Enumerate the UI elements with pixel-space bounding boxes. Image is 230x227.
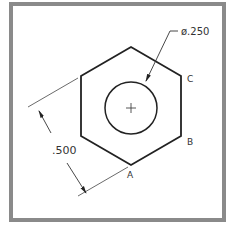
diameter-label: ø.250 — [181, 26, 209, 37]
extension-lines — [28, 78, 128, 196]
technical-drawing: ø.250 .500 C B A — [0, 0, 230, 227]
across-flats-label: .500 — [52, 144, 77, 157]
center-mark-icon — [126, 103, 136, 113]
vertex-label-b: B — [187, 137, 193, 147]
vertex-label-c: C — [187, 74, 193, 84]
diameter-leader — [146, 31, 178, 81]
vertex-label-a: A — [127, 170, 134, 180]
